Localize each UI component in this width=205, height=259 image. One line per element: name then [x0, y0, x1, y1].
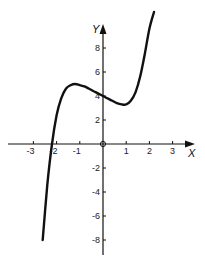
axes: X Y — [8, 23, 196, 255]
x-tick-label: -1 — [73, 146, 81, 156]
y-axis-arrow-icon — [100, 24, 107, 34]
y-axis-title: Y — [92, 23, 100, 35]
y-tick-label: 8 — [95, 43, 100, 53]
y-tick-label: 6 — [95, 67, 100, 77]
x-axis-title: X — [187, 147, 196, 159]
y-tick-label: -2 — [92, 163, 100, 173]
x-tick-label: 1 — [124, 146, 129, 156]
x-tick-label: -3 — [26, 146, 34, 156]
y-tick-label: -6 — [92, 211, 100, 221]
y-tick-label: 2 — [95, 115, 100, 125]
y-tick-label: -8 — [92, 235, 100, 245]
x-tick-label: 3 — [170, 146, 175, 156]
cubic-function-chart: X Y -3-2-1123 8642-2-4-6-8 — [0, 0, 205, 259]
y-tick-label: -4 — [92, 187, 100, 197]
x-tick-label: 2 — [147, 146, 152, 156]
